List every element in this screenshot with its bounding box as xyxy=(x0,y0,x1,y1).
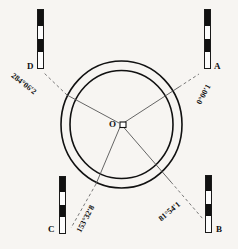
survey-diagram xyxy=(0,0,238,249)
target-label-d: D xyxy=(27,62,34,71)
ray-to-a-solid xyxy=(124,87,180,123)
staff-d-segment-2 xyxy=(38,26,43,39)
staff-c xyxy=(59,176,66,234)
staff-d-segment-3 xyxy=(38,39,43,52)
staff-b-segment-2 xyxy=(206,191,211,204)
target-label-a: A xyxy=(214,62,221,71)
staff-a-segment-3 xyxy=(205,39,210,52)
staff-a-segment-2 xyxy=(205,26,210,39)
ray-to-a-dashed xyxy=(179,74,199,87)
staff-c-segment-3 xyxy=(60,205,65,217)
target-label-c: C xyxy=(48,225,55,234)
staff-d xyxy=(37,9,44,69)
staff-a-segment-1 xyxy=(205,10,210,26)
target-label-b: B xyxy=(216,225,222,234)
staff-d-segment-4 xyxy=(38,52,43,68)
ray-to-d-dashed xyxy=(43,72,67,95)
staff-a-segment-4 xyxy=(205,52,210,68)
staff-c-segment-1 xyxy=(60,177,65,192)
staff-b-segment-1 xyxy=(206,176,211,191)
station-marker-icon xyxy=(120,122,126,128)
ray-to-c-solid xyxy=(96,127,120,184)
staff-b-segment-3 xyxy=(206,204,211,216)
staff-b-segment-4 xyxy=(206,216,211,232)
staff-a xyxy=(204,9,211,69)
staff-d-segment-1 xyxy=(38,10,43,26)
staff-c-segment-2 xyxy=(60,192,65,205)
station-label-o: O xyxy=(109,120,116,129)
staff-c-segment-4 xyxy=(60,217,65,233)
staff-b xyxy=(205,175,212,233)
